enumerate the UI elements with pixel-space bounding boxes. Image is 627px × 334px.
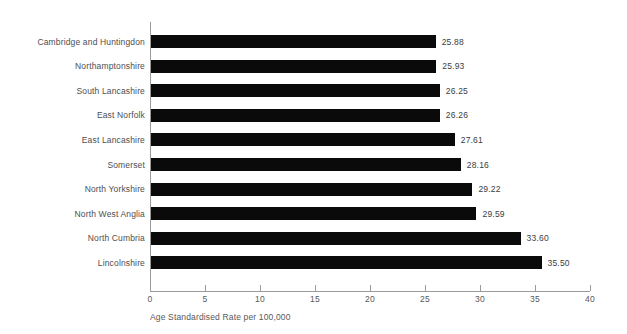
x-axis-tick <box>260 285 261 291</box>
x-axis-tick-label: 25 <box>420 294 430 304</box>
x-axis-tick <box>425 285 426 291</box>
bar-row: South Lancashire26.25 <box>0 84 627 97</box>
bar-category-label: North West Anglia <box>75 209 145 219</box>
bar-category-label: North Cumbria <box>88 233 145 243</box>
x-axis-tick-label: 30 <box>475 294 485 304</box>
bar <box>151 109 440 122</box>
bar-value-label: 29.22 <box>478 184 500 194</box>
bar-row: North West Anglia29.59 <box>0 207 627 220</box>
x-axis-tick-label: 10 <box>255 294 265 304</box>
bar-row: Cambridge and Huntingdon25.88 <box>0 35 627 48</box>
bar-row: North Yorkshire29.22 <box>0 183 627 196</box>
bar-category-label: North Yorkshire <box>85 184 145 194</box>
x-axis-tick <box>535 285 536 291</box>
bar-value-label: 25.88 <box>442 37 464 47</box>
bar-category-label: East Lancashire <box>82 135 145 145</box>
bar <box>151 35 436 48</box>
bar <box>151 133 455 146</box>
plot-area: Cambridge and Huntingdon25.88Northampton… <box>0 0 627 334</box>
x-axis-tick-label: 0 <box>148 294 153 304</box>
bar-category-label: Somerset <box>107 160 145 170</box>
x-axis-tick <box>590 285 591 291</box>
bar <box>151 60 436 73</box>
bar-row: Somerset28.16 <box>0 158 627 171</box>
bar-value-label: 33.60 <box>527 233 549 243</box>
bar-value-label: 25.93 <box>442 61 464 71</box>
bar-row: Lincolnshire35.50 <box>0 256 627 269</box>
bar-category-label: Cambridge and Huntingdon <box>37 37 145 47</box>
x-axis-tick <box>150 285 151 291</box>
bar-category-label: East Norfolk <box>97 110 145 120</box>
x-axis-tick-label: 20 <box>365 294 375 304</box>
x-axis-tick <box>315 285 316 291</box>
x-axis-tick <box>480 285 481 291</box>
bar <box>151 256 542 269</box>
bar-row: North Cumbria33.60 <box>0 232 627 245</box>
x-axis-tick <box>370 285 371 291</box>
x-axis-line <box>150 291 590 292</box>
bar-chart: Cambridge and Huntingdon25.88Northampton… <box>0 0 627 334</box>
bar-category-label: Northamptonshire <box>75 61 145 71</box>
bar-row: East Lancashire27.61 <box>0 133 627 146</box>
bar <box>151 232 521 245</box>
bar-value-label: 29.59 <box>482 209 504 219</box>
x-axis-tick-label: 15 <box>310 294 320 304</box>
bar-category-label: Lincolnshire <box>98 258 145 268</box>
bar-row: East Norfolk26.26 <box>0 109 627 122</box>
bar <box>151 158 461 171</box>
bar <box>151 183 472 196</box>
bar-row: Northamptonshire25.93 <box>0 60 627 73</box>
bar <box>151 84 440 97</box>
bar-value-label: 27.61 <box>461 135 483 145</box>
bar-value-label: 26.26 <box>446 110 468 120</box>
x-axis-title: Age Standardised Rate per 100,000 <box>150 312 291 322</box>
x-axis-tick-label: 40 <box>585 294 595 304</box>
x-axis-tick-label: 5 <box>203 294 208 304</box>
bar-category-label: South Lancashire <box>76 86 145 96</box>
bar-value-label: 35.50 <box>548 258 570 268</box>
bar-value-label: 26.25 <box>446 86 468 96</box>
bar-value-label: 28.16 <box>467 160 489 170</box>
x-axis-tick <box>205 285 206 291</box>
bar <box>151 207 476 220</box>
x-axis-tick-label: 35 <box>530 294 540 304</box>
